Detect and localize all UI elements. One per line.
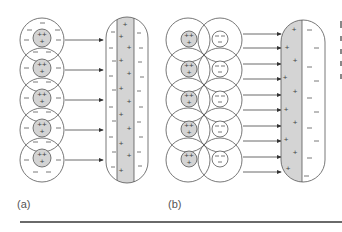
svg-text:+: + <box>283 73 288 82</box>
svg-text:+: + <box>127 151 132 160</box>
panel-a-label: (a) <box>17 198 30 210</box>
svg-text:+: + <box>119 166 124 175</box>
svg-text:+: + <box>119 32 124 41</box>
svg-text:+: + <box>40 97 45 106</box>
svg-text:+: + <box>119 110 124 119</box>
svg-text:+: + <box>123 20 128 29</box>
svg-text:+: + <box>286 164 291 173</box>
svg-text:+: + <box>119 84 124 93</box>
positive-core-signs: +++ +++ +++ +++ +++ <box>184 31 194 167</box>
svg-text:+: + <box>187 158 192 167</box>
molecule-b <box>270 10 325 190</box>
svg-text:+: + <box>293 118 298 127</box>
svg-text:+: + <box>127 43 132 52</box>
field-arrows-b <box>243 34 281 172</box>
svg-text:+: + <box>187 128 192 137</box>
nucleus-plus-signs: +++ +++ +++ +++ +++ <box>37 30 47 166</box>
svg-text:+: + <box>284 105 289 114</box>
svg-text:+: + <box>284 135 289 144</box>
svg-text:+: + <box>40 157 45 166</box>
svg-text:+: + <box>119 139 124 148</box>
svg-text:+: + <box>127 69 132 78</box>
svg-text:+: + <box>187 38 192 47</box>
svg-text:+: + <box>292 25 297 34</box>
svg-text:+: + <box>40 67 45 76</box>
svg-text:+: + <box>127 124 132 133</box>
divider-line <box>20 221 342 223</box>
svg-text:+: + <box>127 97 132 106</box>
molecule-b-minus-signs <box>304 30 319 176</box>
svg-text:+: + <box>40 127 45 136</box>
svg-text:+: + <box>187 68 192 77</box>
svg-text:+: + <box>40 37 45 46</box>
svg-text:+: + <box>293 87 298 96</box>
field-arrows-a <box>65 40 103 160</box>
svg-text:+: + <box>285 43 290 52</box>
svg-text:+: + <box>119 56 124 65</box>
svg-text:+: + <box>293 148 298 157</box>
charges-a: +++ +++ +++ +++ +++ +++ +++ +++ +++ <box>24 20 144 175</box>
negative-cores-b <box>212 31 228 167</box>
panel-b-label: (b) <box>168 198 181 210</box>
svg-text:+: + <box>293 56 298 65</box>
svg-text:+: + <box>187 98 192 107</box>
